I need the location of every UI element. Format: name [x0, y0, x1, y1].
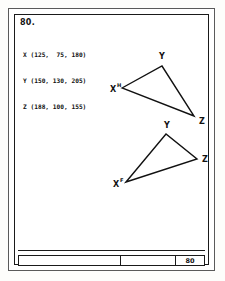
- title-block-cell-left: [19, 256, 121, 265]
- triangle-figures: X H Y Z X F Y Z: [14, 14, 209, 265]
- lower-vertex-label-y: Y: [163, 121, 170, 130]
- drawing-sheet: 80. X (125, 75, 180) Y (150, 130, 205) Z…: [0, 0, 225, 281]
- lower-vertex-label-x: X: [113, 180, 120, 189]
- upper-triangle-outline: [122, 66, 194, 116]
- title-block-cell-middle: [121, 256, 177, 265]
- upper-vertex-label-y: Y: [158, 52, 165, 61]
- lower-triangle-outline: [126, 134, 197, 182]
- upper-vertex-label-z: Z: [199, 117, 205, 126]
- upper-triangle-group: X H Y Z: [110, 52, 205, 126]
- title-block: 80: [18, 255, 205, 266]
- upper-vertex-superscript-h: H: [117, 82, 121, 88]
- title-block-upper-rule: [18, 250, 205, 251]
- lower-vertex-superscript-f: F: [120, 177, 124, 183]
- title-block-number: 80: [176, 256, 204, 265]
- lower-triangle-group: X F Y Z: [113, 121, 208, 189]
- upper-vertex-label-x: X: [110, 85, 117, 94]
- lower-vertex-label-z: Z: [202, 155, 208, 164]
